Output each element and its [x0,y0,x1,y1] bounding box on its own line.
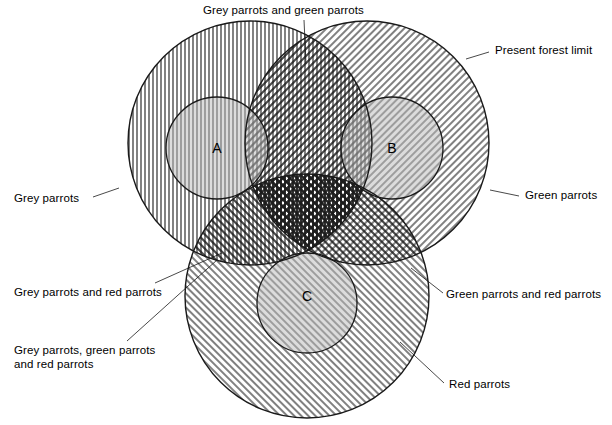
leader-present-forest-limit [466,52,489,59]
venn-diagram-page: A B C Grey parrots and green parrots Pre… [0,0,612,425]
inner-circle-a-letter: A [212,140,222,156]
label-grey-and-green: Grey parrots and green parrots [203,4,364,18]
label-grey-green-and-red-line1: Grey parrots, green parrots [14,344,155,356]
label-grey-parrots: Grey parrots [14,192,79,206]
inner-circle-b-letter: B [387,140,396,156]
label-grey-green-and-red-line2: and red parrots [14,358,94,370]
label-grey-green-and-red: Grey parrots, green parrotsand red parro… [14,344,155,371]
label-red-parrots: Red parrots [449,378,510,392]
inner-circle-c-letter: C [302,288,312,304]
label-green-parrots: Green parrots [525,189,597,203]
leader-green-parrots [490,190,519,196]
label-green-and-red: Green parrots and red parrots [446,288,601,302]
label-present-forest-limit: Present forest limit [495,44,592,58]
leader-grey-parrots [93,188,119,197]
label-grey-and-red: Grey parrots and red parrots [14,286,162,300]
